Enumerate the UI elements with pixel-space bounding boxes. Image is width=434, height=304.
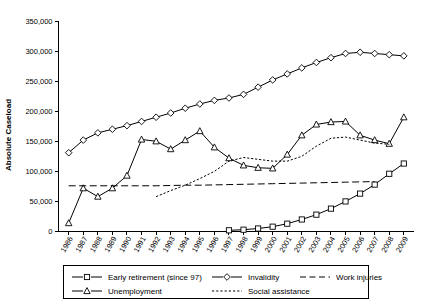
y-tick-label: 100,000	[25, 167, 52, 176]
data-point-marker	[226, 228, 231, 233]
legend-label: Invalidity	[248, 273, 279, 282]
y-tick-label: 250,000	[25, 77, 52, 86]
data-point-marker	[270, 224, 275, 229]
data-point-marker	[314, 212, 319, 217]
legend-label: Social assistance	[248, 287, 310, 296]
line-chart: Absolute Caseload 050,000100,000150,0002…	[0, 0, 434, 304]
y-axis-title: Absolute Caseload	[4, 99, 13, 171]
legend-label: Early retirement (since 97)	[108, 273, 202, 282]
data-point-marker	[84, 274, 89, 279]
legend-label: Work injuries	[336, 273, 382, 282]
y-tick-label: 350,000	[25, 17, 52, 26]
data-point-marker	[328, 206, 333, 211]
data-point-marker	[401, 161, 406, 166]
data-point-marker	[387, 171, 392, 176]
y-tick-label: 0	[48, 227, 52, 236]
data-point-marker	[256, 226, 261, 231]
data-point-marker	[343, 199, 348, 204]
data-point-marker	[285, 221, 290, 226]
chart-container: Absolute Caseload 050,000100,000150,0002…	[0, 0, 434, 304]
y-tick-label: 150,000	[25, 137, 52, 146]
chart-background	[0, 0, 434, 304]
data-point-marker	[299, 217, 304, 222]
y-tick-label: 200,000	[25, 107, 52, 116]
y-tick-label: 50,000	[30, 197, 53, 206]
data-point-marker	[241, 227, 246, 232]
data-point-marker	[357, 191, 362, 196]
data-point-marker	[372, 182, 377, 187]
legend-label: Unemployment	[108, 287, 163, 296]
y-tick-label: 300,000	[25, 47, 52, 56]
